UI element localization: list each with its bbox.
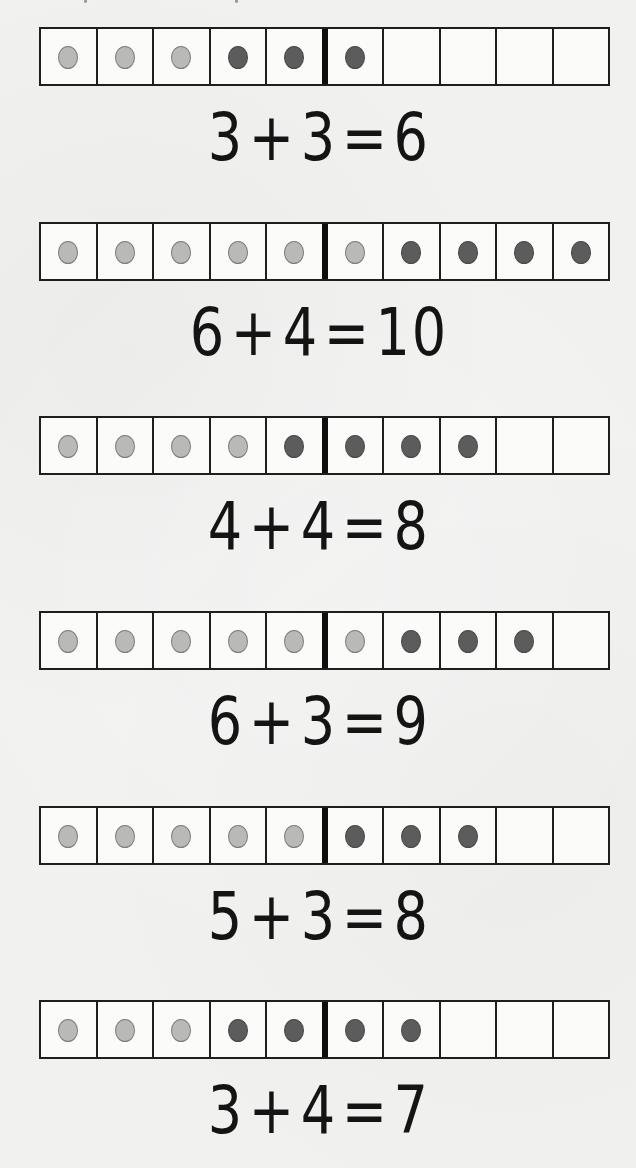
plus-sign: + [249, 494, 296, 560]
second-addend-counter-icon [345, 435, 365, 458]
ten-frame-cell [328, 29, 385, 84]
first-addend-counter-icon [115, 435, 135, 458]
ten-frame-cell [497, 1002, 554, 1057]
ten-frame [39, 416, 610, 475]
first-addend-counter-icon [115, 630, 135, 653]
ten-frame-cell [441, 613, 498, 668]
first-addend-counter-icon [115, 46, 135, 69]
first-addend-counter-icon [228, 241, 248, 264]
ten-frame-cell [267, 1002, 328, 1057]
ten-frame-cell [554, 613, 609, 668]
ten-frame-cell [211, 808, 268, 863]
sum: 9 [394, 689, 430, 755]
ten-frame-cell [98, 224, 155, 279]
ten-frame [39, 1000, 610, 1059]
equals-sign: = [342, 689, 389, 755]
ten-frame-cell [98, 1002, 155, 1057]
ten-frame-cell [554, 1002, 609, 1057]
second-addend-counter-icon [571, 241, 591, 264]
first-addend-counter-icon [228, 630, 248, 653]
ten-frame-cell [384, 224, 441, 279]
first-addend-counter-icon [58, 1019, 78, 1042]
equation: 3+4=7 [58, 1078, 580, 1144]
first-addend-counter-icon [171, 630, 191, 653]
ten-frame-cell [441, 808, 498, 863]
clipped-text-mark [235, 0, 238, 3]
ten-frame [39, 222, 610, 281]
first-addend-counter-icon [345, 630, 365, 653]
first-addend-counter-icon [228, 435, 248, 458]
second-addend: 4 [301, 494, 337, 560]
ten-frame-cell [211, 29, 268, 84]
clipped-text-mark [84, 0, 87, 3]
first-addend: 6 [208, 689, 244, 755]
ten-frame-cell [328, 418, 385, 473]
clipped-heading-fragment [0, 0, 636, 6]
second-addend-counter-icon [345, 1019, 365, 1042]
ten-frame [39, 27, 610, 86]
second-addend-counter-icon [514, 241, 534, 264]
plus-sign: + [249, 1078, 296, 1144]
second-addend-counter-icon [284, 46, 304, 69]
ten-frame-cell [211, 224, 268, 279]
ten-frame-cell [554, 808, 609, 863]
ten-frame-cell [154, 224, 211, 279]
equation: 6+3=9 [58, 689, 580, 755]
ten-frame-cell [267, 418, 328, 473]
ten-frame-cell [98, 418, 155, 473]
second-addend-counter-icon [458, 435, 478, 458]
second-addend-counter-icon [228, 46, 248, 69]
second-addend: 3 [301, 105, 337, 171]
ten-frame-cell [328, 808, 385, 863]
plus-sign: + [249, 884, 296, 950]
ten-frame-cell [384, 29, 441, 84]
ten-frame-cell [441, 1002, 498, 1057]
ten-frame-cell [41, 418, 98, 473]
first-addend-counter-icon [115, 825, 135, 848]
second-addend: 4 [283, 300, 319, 366]
equation: 6+4=10 [58, 300, 580, 366]
ten-frame-cell [267, 29, 328, 84]
ten-frame-cell [497, 613, 554, 668]
plus-sign: + [249, 105, 296, 171]
ten-frame-cell [554, 418, 609, 473]
second-addend: 4 [301, 1078, 337, 1144]
equation: 4+4=8 [58, 494, 580, 560]
second-addend: 3 [301, 689, 337, 755]
first-addend: 5 [208, 884, 244, 950]
ten-frame-cell [497, 29, 554, 84]
first-addend-counter-icon [58, 825, 78, 848]
second-addend-counter-icon [228, 1019, 248, 1042]
first-addend-counter-icon [284, 630, 304, 653]
ten-frame-cell [384, 418, 441, 473]
second-addend-counter-icon [401, 435, 421, 458]
first-addend-counter-icon [171, 435, 191, 458]
first-addend-counter-icon [284, 241, 304, 264]
first-addend-counter-icon [171, 825, 191, 848]
first-addend-counter-icon [228, 825, 248, 848]
ten-frame-cell [154, 808, 211, 863]
ten-frame-cell [497, 224, 554, 279]
sum: 6 [394, 105, 430, 171]
ten-frame-cell [267, 808, 328, 863]
ten-frame-cell [328, 613, 385, 668]
ten-frame-cell [441, 29, 498, 84]
equation: 5+3=8 [58, 884, 580, 950]
equals-sign: = [324, 300, 371, 366]
first-addend: 3 [208, 1078, 244, 1144]
ten-frame-cell [267, 613, 328, 668]
ten-frame-cell [384, 1002, 441, 1057]
plus-sign: + [231, 300, 278, 366]
second-addend-counter-icon [284, 1019, 304, 1042]
ten-frame [39, 611, 610, 670]
ten-frame-cell [441, 418, 498, 473]
second-addend-counter-icon [401, 630, 421, 653]
ten-frame-cell [41, 224, 98, 279]
first-addend-counter-icon [58, 241, 78, 264]
second-addend-counter-icon [458, 241, 478, 264]
ten-frame-cell [154, 1002, 211, 1057]
second-addend-counter-icon [345, 46, 365, 69]
sum: 10 [376, 300, 448, 366]
equals-sign: = [342, 494, 389, 560]
ten-frame-cell [154, 613, 211, 668]
